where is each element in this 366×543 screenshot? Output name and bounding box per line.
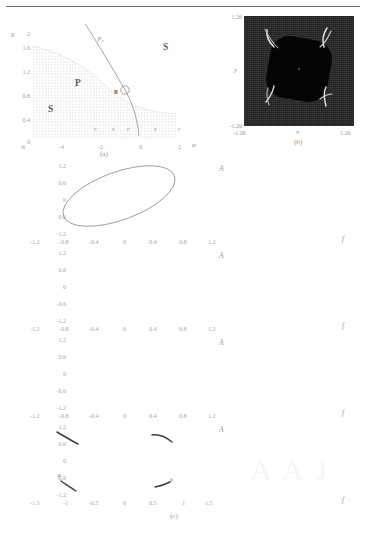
panel-a-curve-label-sub: s	[102, 38, 104, 43]
c3-ytick-0: 1.2	[40, 336, 66, 343]
c1-plot	[0, 158, 366, 246]
panel-a: 2 1.6 1.2 0.8 0.4 0 x -6 -4 -2 0 2 α	[0, 10, 212, 158]
c4-fragment-label-b: b	[170, 477, 173, 483]
c3-xtick-5: 0.8	[179, 412, 186, 419]
panel-b-image	[244, 16, 354, 126]
panel-a-plot	[0, 10, 212, 158]
panel-b-arc-bottom-right-2	[320, 94, 332, 99]
panel-c-row-1: 1.2 0.6 0 -0.6 -1.2 -1.2 -0.8 -0.4 0 0.4…	[0, 158, 366, 246]
c3-xlabel: f	[342, 408, 344, 417]
c3-xtick-4: 0.4	[149, 412, 156, 419]
panel-c-row-4: 1.2 0.6 0 -0.6 -1.2 -1.5 -1 -0.5 0 0.5 1…	[0, 419, 366, 543]
c3-ytick-2: 0	[40, 370, 66, 377]
c4-fragment-upper-right	[152, 435, 172, 442]
panel-b-arc-bottom-left-2	[267, 88, 269, 105]
panel-a-caption: (a)	[100, 150, 108, 158]
panel-a-curve-label: ps	[98, 34, 103, 43]
panel-a-mark-0: r	[94, 125, 97, 132]
c2-ytick-2: 0	[40, 283, 66, 290]
c1-orbit-ellipse	[55, 153, 182, 238]
c2-xtick-3: 0	[123, 325, 126, 332]
panel-b-xtick-left: -1.26	[233, 129, 245, 136]
c4-fragment-upper-left	[57, 432, 78, 444]
top-rule	[6, 6, 360, 7]
panel-c-caption: (c)	[170, 512, 178, 520]
panel-a-region-label-S-left: S	[48, 104, 53, 114]
c2-ytick-0: 1.2	[40, 249, 66, 256]
c2-ylabel: A	[219, 251, 224, 260]
c3-xtick-1: -0.8	[59, 412, 68, 419]
c3-xtick-6: 1.2	[208, 412, 215, 419]
c3-xtick-0: -1.2	[30, 412, 39, 419]
c2-xtick-2: -0.4	[89, 325, 98, 332]
panel-a-mark-4: r	[178, 125, 181, 132]
panel-a-region-label-S-right: S	[163, 42, 168, 52]
c2-xlabel: f	[342, 321, 344, 330]
c3-xtick-2: -0.4	[89, 412, 98, 419]
panel-b-ytick-top: 1.26	[218, 13, 242, 20]
c3-xtick-3: 0	[123, 412, 126, 419]
panel-a-region-label-P: P	[75, 78, 81, 88]
c4-fragment-lower-right	[155, 482, 170, 487]
panel-c-row-3: 1.2 0.6 0 -0.6 -1.2 -1.2 -0.8 -0.4 0 0.4…	[0, 332, 366, 420]
c4-fragment-lower-left	[61, 481, 76, 491]
panel-a-mark-1: s	[112, 125, 115, 132]
c4-fragment-label-a: a	[58, 472, 61, 478]
c2-xtick-4: 0.4	[149, 325, 156, 332]
c2-ytick-1: 0.6	[40, 266, 66, 273]
c2-ytick-3: -0.6	[40, 300, 66, 307]
c3-ylabel: A	[219, 338, 224, 347]
panel-c-row-2: 1.2 0.6 0 -0.6 -1.2 -1.2 -0.8 -0.4 0 0.4…	[0, 245, 366, 333]
panel-a-mark-3: s	[154, 125, 157, 132]
c2-xtick-0: -1.2	[30, 325, 39, 332]
c3-ytick-4: -1.2	[40, 404, 66, 411]
panel-b-xtick-right: 1.26	[340, 129, 350, 136]
c3-ytick-1: 0.6	[40, 353, 66, 360]
panel-a-point-label: B	[114, 89, 118, 95]
panel-b-caption: (b)	[294, 138, 302, 146]
figure-canvas: 2 1.6 1.2 0.8 0.4 0 x -6 -4 -2 0 2 α	[0, 0, 366, 543]
panel-b-ytick-bottom: -1.26	[218, 122, 242, 129]
c2-xtick-6: 1.2	[208, 325, 215, 332]
c4-plot	[0, 419, 366, 543]
panel-a-mark-2: r	[127, 125, 130, 132]
c2-xtick-1: -0.8	[59, 325, 68, 332]
c3-ytick-3: -0.6	[40, 387, 66, 394]
panel-b-arc-top-right-2	[320, 31, 331, 47]
panel-b-ylabel: y	[234, 66, 237, 74]
panel-b: 1.26 -1.26 y -1.26 1.26 x (b)	[218, 10, 366, 158]
c2-ytick-4: -1.2	[40, 317, 66, 324]
panel-b-xlabel: x	[296, 128, 299, 136]
c2-xtick-5: 0.8	[179, 325, 186, 332]
panel-b-arcs	[244, 16, 354, 126]
